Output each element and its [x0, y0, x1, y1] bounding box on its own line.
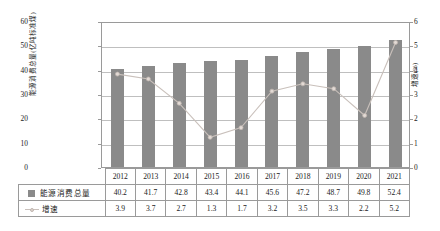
table-year-header: 2019	[318, 169, 348, 185]
y-axis-right-tick-label: 6	[414, 18, 434, 25]
legend-label: 能源消费总量	[40, 189, 90, 198]
table-year-header: 2016	[227, 169, 257, 185]
line-marker	[301, 82, 305, 86]
line-marker	[208, 135, 212, 139]
line-marker	[332, 87, 336, 91]
table-header-row: 2012201320142015201620172018201920202021	[19, 169, 410, 185]
y-axis-left-title: 能源消费总量(亿吨标准煤)	[27, 0, 37, 113]
table-value-cell: 2.7	[166, 201, 196, 217]
table-value-cell: 43.4	[196, 185, 226, 201]
table-value-cell: 3.3	[318, 201, 348, 217]
line-marker	[394, 40, 398, 44]
y-axis-right-tick-label: 0	[414, 164, 434, 171]
table-year-header: 2018	[288, 169, 318, 185]
table-year-header: 2020	[349, 169, 379, 185]
plot-area	[101, 22, 410, 168]
line-marker	[363, 113, 367, 117]
table-year-header: 2015	[196, 169, 226, 185]
line-marker	[239, 126, 243, 130]
table-value-cell: 49.8	[349, 185, 379, 201]
table-value-cell: 48.7	[318, 185, 348, 201]
table-value-cell: 3.7	[136, 201, 166, 217]
table-value-cell: 1.3	[196, 201, 226, 217]
legend-line-icon	[25, 206, 39, 213]
table-value-cell: 2.2	[349, 201, 379, 217]
table-year-header: 2017	[257, 169, 287, 185]
y-axis-left-tick-label: 50	[2, 42, 28, 49]
line-marker	[270, 89, 274, 93]
table-year-header: 2014	[166, 169, 196, 185]
table-value-cell: 41.7	[136, 185, 166, 201]
legend-square-icon	[28, 190, 35, 197]
y-axis-right-tick-label: 3	[414, 91, 434, 98]
table-value-cell: 3.2	[257, 201, 287, 217]
table-value-cell: 1.7	[227, 201, 257, 217]
table-value-cell: 47.2	[288, 185, 318, 201]
table-value-cell: 52.4	[379, 185, 410, 201]
table-row: 能源消费总量40.241.742.843.444.145.647.248.749…	[19, 185, 410, 201]
y-axis-left-tick-label: 20	[2, 115, 28, 122]
table-value-cell: 44.1	[227, 185, 257, 201]
y-axis-left-tick-label: 30	[2, 91, 28, 98]
y-axis-left-tick-label: 40	[2, 67, 28, 74]
y-axis-left-tick-label: 60	[2, 18, 28, 25]
table-value-cell: 40.2	[105, 185, 135, 201]
y-axis-right-tick-label: 2	[414, 115, 434, 122]
y-axis-right-tick-label: 1	[414, 140, 434, 147]
chart-figure: 能源消费总量(亿吨标准煤) 增速(%) 01020304050600123456…	[0, 0, 440, 231]
table-year-header: 2021	[379, 169, 410, 185]
line-marker	[146, 77, 150, 81]
line-series	[102, 23, 411, 169]
table-row: 增速3.93.72.71.31.73.23.53.32.25.2	[19, 201, 410, 217]
line-marker	[115, 72, 119, 76]
growth-line-path	[117, 42, 395, 137]
table-value-cell: 42.8	[166, 185, 196, 201]
data-table: 2012201320142015201620172018201920202021…	[18, 168, 410, 217]
table-year-header: 2013	[136, 169, 166, 185]
y-axis-left-tick-label: 10	[2, 140, 28, 147]
line-marker	[177, 101, 181, 105]
table-value-cell: 5.2	[379, 201, 410, 217]
legend-label: 增速	[42, 205, 59, 214]
table-value-cell: 3.5	[288, 201, 318, 217]
y-axis-right-tick-label: 4	[414, 67, 434, 74]
y-axis-right-tick-label: 5	[414, 42, 434, 49]
table-row-label-cell: 增速	[19, 201, 106, 217]
table-value-cell: 45.6	[257, 185, 287, 201]
table-value-cell: 3.9	[105, 201, 135, 217]
table-year-header: 2012	[105, 169, 135, 185]
table-corner-cell	[19, 169, 106, 185]
table-row-label-cell: 能源消费总量	[19, 185, 106, 201]
